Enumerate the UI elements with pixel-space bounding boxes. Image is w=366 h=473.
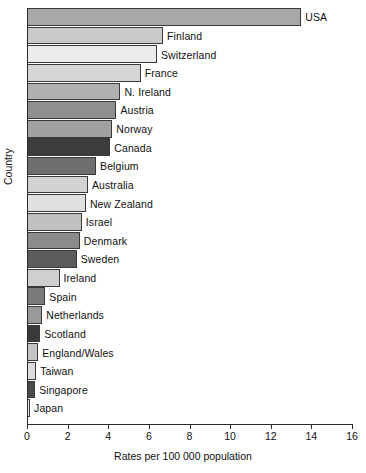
bar-label: Netherlands xyxy=(46,310,104,321)
bar-row: Finland xyxy=(27,27,352,46)
bar-label: Denmark xyxy=(84,236,127,247)
bar-australia xyxy=(27,176,88,194)
x-axis-title: Rates per 100 000 population xyxy=(0,450,366,462)
bar-row: Switzerland xyxy=(27,45,352,64)
x-tick xyxy=(68,424,69,429)
bar-row: Sweden xyxy=(27,250,352,269)
x-tick-label: 6 xyxy=(146,431,152,442)
x-tick-label: 4 xyxy=(105,431,111,442)
y-axis-title: Country xyxy=(2,148,14,185)
bar-netherlands xyxy=(27,306,42,324)
bar-row: N. Ireland xyxy=(27,83,352,102)
bar-label: Austria xyxy=(120,105,153,116)
bar-row: Belgium xyxy=(27,157,352,176)
bar-taiwan xyxy=(27,362,36,380)
bar-label: Taiwan xyxy=(40,366,73,377)
x-tick-label: 2 xyxy=(65,431,71,442)
bar-row: Spain xyxy=(27,287,352,306)
x-tick xyxy=(311,424,312,429)
bar-label: New Zealand xyxy=(90,198,153,209)
bar-row: USA xyxy=(27,8,352,27)
bar-label: Spain xyxy=(49,291,76,302)
bar-norway xyxy=(27,120,112,138)
bar-row: Singapore xyxy=(27,381,352,400)
bar-row: Ireland xyxy=(27,269,352,288)
y-axis-line xyxy=(27,8,28,424)
bar-label: France xyxy=(145,68,178,79)
bar-singapore xyxy=(27,381,35,399)
bar-label: England/Wales xyxy=(42,347,114,358)
bar-label: Japan xyxy=(34,403,63,414)
bar-label: Australia xyxy=(92,180,134,191)
x-tick xyxy=(149,424,150,429)
bar-israel xyxy=(27,213,82,231)
bar-row: Israel xyxy=(27,213,352,232)
plot-area: USAFinlandSwitzerlandFranceN. IrelandAus… xyxy=(27,8,352,418)
x-tick-label: 10 xyxy=(224,431,236,442)
bar-label: Switzerland xyxy=(161,49,216,60)
bar-row: Norway xyxy=(27,120,352,139)
x-tick-label: 16 xyxy=(346,431,358,442)
bar-sweden xyxy=(27,250,77,268)
bar-row: France xyxy=(27,64,352,83)
bar-spain xyxy=(27,287,45,305)
bar-row: Taiwan xyxy=(27,362,352,381)
bar-label: Sweden xyxy=(81,254,120,265)
x-tick xyxy=(271,424,272,429)
x-tick xyxy=(352,424,353,429)
x-tick-label: 14 xyxy=(306,431,318,442)
bar-usa xyxy=(27,8,301,26)
x-tick xyxy=(190,424,191,429)
bar-n-ireland xyxy=(27,83,120,101)
bar-row: Japan xyxy=(27,399,352,418)
bar-finland xyxy=(27,27,163,45)
bar-label: Singapore xyxy=(39,385,88,396)
bar-row: Austria xyxy=(27,101,352,120)
bar-england-wales xyxy=(27,343,38,361)
bar-label: Ireland xyxy=(64,273,97,284)
bar-austria xyxy=(27,101,116,119)
x-tick-label: 12 xyxy=(265,431,277,442)
x-tick-label: 0 xyxy=(24,431,30,442)
bar-switzerland xyxy=(27,45,157,63)
x-tick xyxy=(27,424,28,429)
bar-label: Canada xyxy=(114,142,151,153)
bar-label: Scotland xyxy=(44,329,86,340)
bar-label: Finland xyxy=(167,31,202,42)
bar-label: N. Ireland xyxy=(124,87,171,98)
bar-label: Norway xyxy=(116,124,152,135)
bar-row: Canada xyxy=(27,138,352,157)
bar-ireland xyxy=(27,269,60,287)
bar-new-zealand xyxy=(27,194,86,212)
bar-label: Israel xyxy=(86,217,112,228)
bar-label: Belgium xyxy=(100,161,139,172)
bar-row: Denmark xyxy=(27,232,352,251)
bar-denmark xyxy=(27,232,80,250)
x-tick-label: 8 xyxy=(187,431,193,442)
bar-canada xyxy=(27,138,110,156)
bar-row: Australia xyxy=(27,176,352,195)
bar-row: Netherlands xyxy=(27,306,352,325)
x-tick xyxy=(230,424,231,429)
bar-row: Scotland xyxy=(27,325,352,344)
x-tick xyxy=(108,424,109,429)
bar-label: USA xyxy=(305,12,327,23)
bar-belgium xyxy=(27,157,96,175)
bar-chart: USAFinlandSwitzerlandFranceN. IrelandAus… xyxy=(0,0,366,473)
bar-france xyxy=(27,64,141,82)
bar-scotland xyxy=(27,325,40,343)
bar-row: New Zealand xyxy=(27,194,352,213)
bar-row: England/Wales xyxy=(27,343,352,362)
